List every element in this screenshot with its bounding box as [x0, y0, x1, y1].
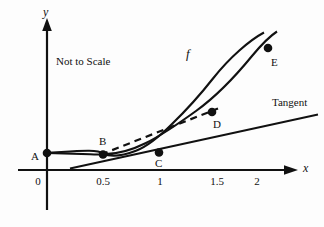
graph-canvas	[0, 0, 324, 227]
secant-line-bd	[101, 109, 218, 155]
data-point-c	[155, 148, 164, 157]
point-label-a: A	[31, 151, 39, 162]
x-tick-label-2: 1	[153, 176, 167, 187]
x-tick-label-0: 0	[31, 176, 45, 187]
data-point-d	[208, 108, 217, 117]
point-label-e: E	[271, 57, 278, 68]
function-curve-f-overlay	[47, 32, 278, 155]
x-axis-label: x	[303, 162, 308, 174]
y-axis-arrowhead	[42, 18, 52, 31]
x-tick-label-3: 1.5	[205, 176, 229, 187]
x-tick-label-1: 0.5	[91, 176, 115, 187]
data-point-b	[99, 150, 108, 159]
point-label-b: B	[99, 136, 106, 147]
data-point-a	[43, 149, 52, 158]
x-axis-arrowhead	[284, 165, 298, 175]
tangent-line-label: Tangent	[272, 97, 307, 108]
point-label-d: D	[213, 119, 221, 130]
data-point-e	[264, 44, 273, 53]
graph-figure: y x 0 0.5 1 1.5 2 A B C D E Not to Scale…	[0, 0, 324, 227]
not-to-scale-note: Not to Scale	[56, 56, 110, 67]
y-axis-label: y	[43, 6, 48, 18]
x-tick-label-4: 2	[250, 176, 264, 187]
tangent-line	[70, 115, 318, 169]
point-label-c: C	[155, 158, 162, 169]
function-curve-label: f	[186, 47, 190, 60]
